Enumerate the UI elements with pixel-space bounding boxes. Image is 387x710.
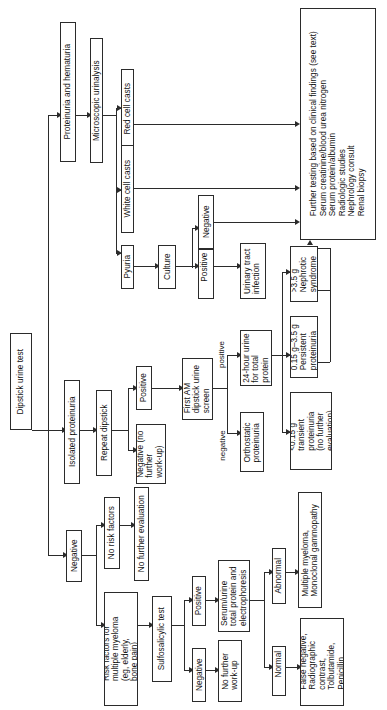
- node-label: No risk factors: [107, 506, 116, 559]
- edge-repeat-out: [112, 430, 128, 431]
- edge-rcc-to-further: [134, 124, 298, 125]
- edge-label-negative: negative: [216, 420, 228, 470]
- edge-root-spine-vert: [48, 375, 49, 555]
- node-label: First AM dipstick urine screen: [183, 365, 211, 413]
- edge-24h-out: [272, 355, 282, 356]
- node-repeat-positive[interactable]: Positive: [136, 366, 152, 410]
- node-label: Culture: [162, 254, 171, 281]
- edge-culture-out: [176, 266, 192, 267]
- node-label: Microscopic urinalysis: [92, 60, 101, 141]
- edge-micro-split: [116, 108, 117, 253]
- node-label: Normal: [272, 651, 286, 692]
- edge-ssa-out: [172, 625, 184, 626]
- node-label: Sulfosalicylic test: [157, 607, 166, 670]
- edge-reppos-firstam: [152, 388, 182, 389]
- edge-serum-out: [250, 600, 264, 601]
- node-urinary-tract-infection[interactable]: Urinary tract infection: [240, 243, 266, 299]
- node-pyuria[interactable]: Pyuria: [121, 245, 134, 289]
- node-first-am-dipstick-screen[interactable]: First AM dipstick urine screen: [182, 358, 213, 420]
- edge-micro-out: [103, 115, 116, 116]
- node-24-hour-urine[interactable]: 24-hour urine for total protein: [240, 330, 272, 386]
- edge-repeat-split: [128, 388, 129, 450]
- node-label: No further work-up: [221, 653, 240, 690]
- node-proteinuria-and-hematuria[interactable]: Proteinuria and hematuria: [60, 22, 76, 162]
- node-orthostatic-proteinuria[interactable]: Orthostatic proteinuria: [240, 412, 264, 472]
- node-label: Positive: [139, 373, 148, 402]
- edge-cultneg-further: [214, 222, 298, 223]
- flowchart-canvas: Dipstick urine test Proteinuria and hema…: [0, 0, 387, 710]
- node-label: Abnormal: [274, 558, 283, 593]
- node-label: Positive: [198, 252, 214, 295]
- node-false-negative-result[interactable]: False negative, Radiographic contrast, T…: [300, 618, 344, 706]
- node-label: Pyuria: [123, 255, 132, 279]
- node-negative[interactable]: Negative: [66, 530, 82, 582]
- edge-serum-split: [264, 572, 265, 667]
- node-label: No further evaluation: [137, 495, 146, 572]
- node-white-cell-casts[interactable]: White cell casts: [121, 145, 134, 233]
- node-transient-proteinuria[interactable]: <0.15 g transient proteinuria (no furthe…: [290, 392, 332, 470]
- node-label: Proteinuria and hematuria: [63, 44, 72, 139]
- node-risk-factors-myeloma[interactable]: Risk factors for multiple myeloma (eg, e…: [104, 592, 138, 706]
- node-label: Further testing based on clinical findin…: [309, 31, 367, 216]
- node-label: Repeat dipstick: [99, 405, 108, 462]
- edge-protein-to-further-vert: [330, 248, 331, 362]
- node-label: 0.15 g–3.5 g Persistent proteinuria: [290, 324, 318, 370]
- edge-firstam-out: [213, 388, 227, 389]
- node-label: Negative (no further work-up): [137, 430, 165, 477]
- edge-negative-split: [96, 525, 97, 625]
- node-label: Risk factors for multiple myeloma (eg, e…: [104, 617, 138, 682]
- node-culture-positive[interactable]: Positive: [198, 249, 214, 299]
- node-label: White cell casts: [123, 160, 132, 218]
- node-ssa-negative[interactable]: Negative: [192, 648, 206, 702]
- node-culture[interactable]: Culture: [158, 245, 176, 289]
- node-label: Dipstick urine test: [16, 349, 25, 415]
- node-label: Urinary tract infection: [244, 248, 263, 293]
- node-serum-urine-electrophoresis[interactable]: Serum/urine total protein and electropho…: [218, 560, 250, 632]
- node-no-further-workup[interactable]: No further work-up: [218, 640, 242, 702]
- node-multiple-myeloma-result[interactable]: Multiple myeloma, Monoclonal gammopathy: [298, 492, 322, 608]
- edge-root-to-protein-hem: [48, 115, 49, 377]
- node-label: Negative: [69, 540, 78, 573]
- node-label: 24-hour urine for total protein: [242, 333, 270, 382]
- edge-persistent-up: [318, 362, 330, 363]
- node-no-further-evaluation[interactable]: No further evaluation: [134, 487, 149, 581]
- node-no-risk-factors[interactable]: No risk factors: [104, 497, 120, 569]
- node-microscopic-urinalysis[interactable]: Microscopic urinalysis: [90, 38, 103, 163]
- arrow-into-further: [307, 240, 313, 245]
- node-normal[interactable]: Normal: [272, 646, 286, 696]
- node-label: Negative: [194, 659, 203, 692]
- edge-culture-split: [192, 228, 193, 268]
- node-label: Isolated proteinuria: [67, 397, 76, 468]
- node-further-testing[interactable]: Further testing based on clinical findin…: [300, 8, 376, 240]
- node-label: False negative, Radiographic contrast, T…: [300, 634, 344, 690]
- node-label: <0.15 g transient proteinuria (no furthe…: [290, 411, 332, 452]
- node-repeat-dipstick[interactable]: Repeat dipstick: [96, 390, 112, 476]
- node-ssa-positive[interactable]: Positive: [192, 576, 206, 626]
- node-red-cell-casts[interactable]: Red cell casts: [121, 69, 134, 149]
- edge-negative-out: [82, 555, 96, 556]
- node-label: Serum/urine total protein and electropho…: [220, 566, 248, 626]
- edge-root-spine: [32, 430, 48, 431]
- node-isolated-proteinuria[interactable]: Isolated proteinuria: [64, 380, 80, 484]
- node-dipstick-urine-test[interactable]: Dipstick urine test: [10, 333, 32, 430]
- edge-ssa-split: [184, 600, 185, 670]
- edge-24h-split: [282, 272, 283, 432]
- edge-nephrotic-up: [318, 290, 330, 291]
- node-label: Multiple myeloma, Monoclonal gammopathy: [301, 504, 320, 597]
- edge-wcc-to-further: [134, 188, 298, 189]
- node-label: >3.5 g Nephrotic syndrome: [290, 256, 318, 292]
- node-label: Positive: [194, 586, 203, 615]
- node-label: Red cell casts: [123, 83, 132, 135]
- node-repeat-negative-no-workup[interactable]: Negative (no further work-up): [136, 424, 166, 484]
- node-abnormal[interactable]: Abnormal: [272, 548, 286, 604]
- node-persistent-proteinuria[interactable]: 0.15 g–3.5 g Persistent proteinuria: [290, 316, 318, 378]
- edge-label-positive: positive: [216, 330, 228, 378]
- node-label: Orthostatic proteinuria: [243, 422, 262, 462]
- node-label: Negative: [201, 206, 210, 239]
- node-nephrotic-syndrome[interactable]: >3.5 g Nephrotic syndrome: [290, 246, 318, 302]
- node-sulfosalicylic-test[interactable]: Sulfosalicylic test: [152, 596, 172, 682]
- node-culture-negative[interactable]: Negative: [198, 195, 214, 249]
